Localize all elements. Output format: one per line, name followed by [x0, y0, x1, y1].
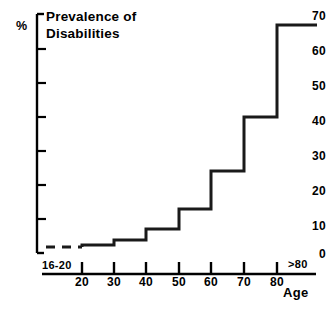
step-segments-solid: [82, 25, 317, 247]
chart-plot-area: [0, 0, 326, 309]
chart-container: Prevalence of Disabilities % 70 60 50 40…: [0, 0, 326, 309]
x-axis: [42, 262, 316, 274]
y-axis: [37, 14, 46, 253]
step-series: [46, 25, 317, 247]
